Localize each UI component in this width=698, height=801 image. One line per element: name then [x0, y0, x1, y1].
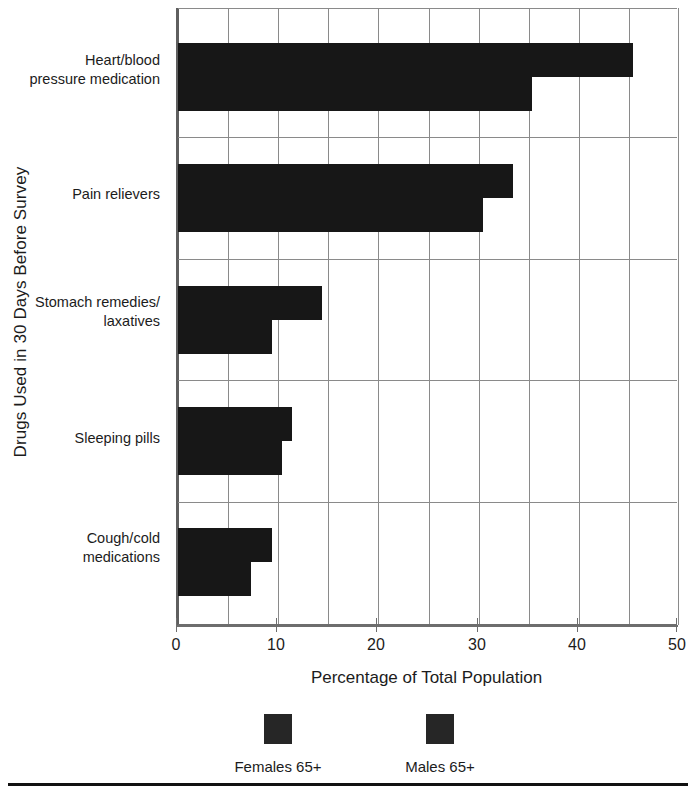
x-tick-40 [577, 618, 578, 632]
x-tick-label-40: 40 [547, 636, 607, 654]
x-axis-title: Percentage of Total Population [176, 668, 677, 688]
category-label-cough-cold-medications: Cough/cold medications [0, 529, 160, 566]
category-label-line: laxatives [104, 313, 160, 329]
plot-area [176, 8, 677, 625]
category-label-line: pressure medication [29, 71, 160, 87]
gridline-horizontal-4 [178, 502, 677, 503]
gridline-horizontal-top [178, 8, 677, 9]
bar-females-65-pain-relievers [178, 164, 513, 198]
bar-males-65-sleeping-pills [178, 441, 282, 475]
category-label-line: Sleeping pills [75, 430, 160, 446]
gridline-vertical-45 [629, 8, 630, 625]
plot-inner [178, 8, 677, 625]
category-label-line: Stomach remedies/ [35, 294, 160, 310]
gridline-vertical-40 [579, 8, 580, 625]
x-tick-50 [676, 618, 677, 632]
bar-males-65-pain-relievers [178, 198, 483, 232]
x-tick-label-20: 20 [346, 636, 406, 654]
legend-item-females-65-plus: Females 65+ [198, 714, 358, 775]
x-tick-label-30: 30 [447, 636, 507, 654]
category-label-heart-blood-pressure-medication: Heart/blood pressure medication [0, 51, 160, 88]
category-label-line: Heart/blood [85, 52, 160, 68]
legend-label-males: Males 65+ [360, 758, 520, 775]
x-tick-label-0: 0 [146, 636, 206, 654]
chart-legend: Females 65+ Males 65+ [0, 714, 698, 774]
gridline-horizontal-2 [178, 259, 677, 260]
category-label-stomach-remedies-laxatives: Stomach remedies/ laxatives [0, 293, 160, 330]
x-tick-10 [276, 618, 277, 632]
footer-divider [8, 783, 688, 786]
category-label-group: Heart/blood pressure medication Pain rel… [0, 0, 168, 801]
gridline-horizontal-3 [178, 380, 677, 381]
legend-swatch-females [264, 714, 292, 744]
bar-females-65-sleeping-pills [178, 407, 292, 441]
bar-males-65-stomach-remedies-laxatives [178, 320, 272, 354]
x-tick-label-50: 50 [647, 636, 698, 654]
gridline-vertical-50 [678, 8, 679, 625]
legend-item-males-65-plus: Males 65+ [360, 714, 520, 775]
legend-swatch-males [426, 714, 454, 744]
category-label-pain-relievers: Pain relievers [0, 185, 160, 204]
category-label-line: medications [83, 549, 160, 565]
x-tick-0 [176, 618, 177, 632]
x-tick-label-10: 10 [246, 636, 306, 654]
bar-females-65-stomach-remedies-laxatives [178, 286, 322, 320]
chart-figure: Drugs Used in 30 Days Before Survey Hear… [0, 0, 698, 801]
legend-label-females: Females 65+ [198, 758, 358, 775]
bar-females-65-heart-blood-pressure-medication [178, 43, 633, 77]
gridline-horizontal-1 [178, 137, 677, 138]
x-tick-20 [376, 618, 377, 632]
category-label-line: Cough/cold [87, 530, 160, 546]
bar-females-65-cough-cold-medications [178, 528, 272, 562]
category-label-sleeping-pills: Sleeping pills [0, 429, 160, 448]
bar-males-65-cough-cold-medications [178, 562, 251, 596]
x-tick-30 [477, 618, 478, 632]
x-axis-line [176, 625, 678, 627]
category-label-line: Pain relievers [72, 186, 160, 202]
bar-males-65-heart-blood-pressure-medication [178, 77, 532, 111]
